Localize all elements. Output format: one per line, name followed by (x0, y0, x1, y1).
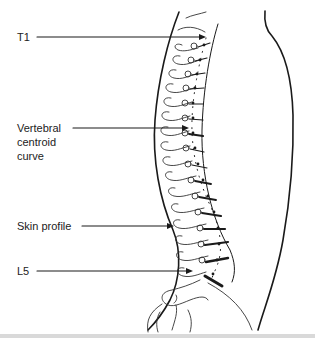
skin-profile-label: Skin profile (17, 219, 71, 233)
bottom-divider (0, 334, 315, 338)
vertebrae (161, 12, 208, 277)
centroid-label-line2: centroid (17, 135, 56, 149)
spine-diagram (0, 0, 315, 338)
centroid-label-line3: curve (17, 149, 44, 163)
pelvis (148, 280, 252, 332)
t1-label: T1 (17, 30, 30, 44)
body-front-outline (258, 11, 293, 330)
disc-lines (189, 43, 228, 286)
skin-profile-curve (148, 12, 179, 330)
centroid-label-line1: Vertebral (17, 121, 61, 135)
facet-circles (182, 43, 205, 263)
l5-label: L5 (17, 264, 29, 278)
